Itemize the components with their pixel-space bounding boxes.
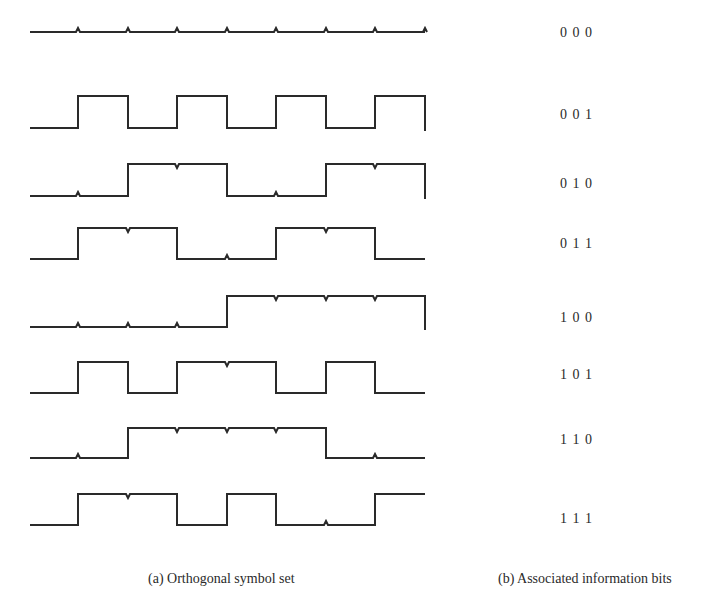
waveform-010 (30, 164, 425, 199)
bits-label-110: 1 1 0 (560, 432, 630, 448)
waveform-101 (30, 362, 425, 393)
bits-label-001: 0 0 1 (560, 107, 630, 123)
caption-associated-information-bits: (b) Associated information bits (498, 571, 672, 587)
waveform-111 (30, 494, 425, 525)
waveform-000 (30, 28, 427, 32)
caption-orthogonal-symbol-set: (a) Orthogonal symbol set (148, 571, 295, 587)
waveform-110 (30, 428, 425, 458)
bits-label-000: 0 0 0 (560, 25, 630, 41)
bits-label-010: 0 1 0 (560, 176, 630, 192)
waveform-011 (30, 228, 425, 259)
bits-label-111: 1 1 1 (560, 511, 630, 527)
bits-label-011: 0 1 1 (560, 236, 630, 252)
bits-label-100: 1 0 0 (560, 310, 630, 326)
waveform-001 (30, 96, 425, 131)
bits-label-101: 1 0 1 (560, 367, 630, 383)
waveform-100 (30, 296, 425, 330)
